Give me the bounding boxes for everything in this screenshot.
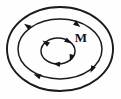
figure-root: M xyxy=(0,0,121,99)
arrow-middle-bottom-left xyxy=(34,74,42,79)
center-label-m: M xyxy=(75,30,87,45)
middle-loop xyxy=(18,19,102,79)
arrow-inner-top-right xyxy=(64,37,71,43)
field-line-diagram: M xyxy=(0,0,121,99)
loops-group xyxy=(7,7,113,91)
